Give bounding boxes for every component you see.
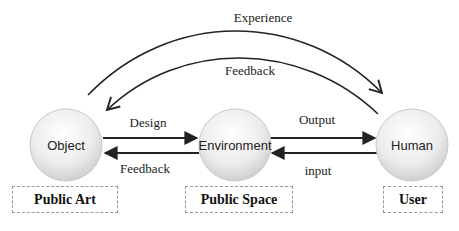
public-art-box: Public Art [12, 186, 118, 213]
feedback-top-label: Feedback [225, 63, 275, 79]
output-label: Output [299, 112, 335, 128]
object-label: Object [47, 138, 85, 153]
environment-label: Environment [199, 138, 272, 153]
design-label: Design [130, 115, 167, 131]
experience-label: Experience [234, 10, 292, 26]
user-box: User [383, 186, 443, 213]
human-label: Human [391, 138, 433, 153]
feedback-bottom-label: Feedback [120, 161, 170, 177]
input-label: input [305, 163, 332, 179]
public-space-box: Public Space [185, 186, 293, 213]
